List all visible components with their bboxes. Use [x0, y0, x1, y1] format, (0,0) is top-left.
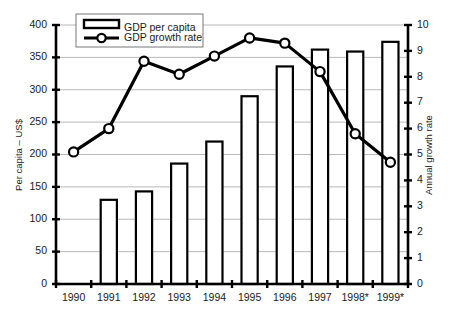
right-tick-label: 1: [417, 251, 423, 263]
bar: [277, 66, 293, 284]
x-axis-label: 1994: [203, 291, 227, 303]
left-tick-label: 350: [29, 50, 47, 62]
bar: [347, 52, 363, 284]
right-tick-label: 0: [417, 277, 423, 289]
data-point-marker: [315, 67, 324, 76]
x-axis-label: 1997: [308, 291, 332, 303]
right-tick-label: 10: [417, 18, 429, 30]
left-tick-label: 0: [41, 277, 47, 289]
x-axis-label: 1992: [132, 291, 156, 303]
x-axis-label: 1995: [238, 291, 262, 303]
data-point-marker: [245, 33, 254, 42]
right-tick-label: 2: [417, 225, 423, 237]
bar: [242, 96, 258, 284]
left-tick-label: 300: [29, 83, 47, 95]
bar: [171, 164, 187, 284]
right-tick-label: 7: [417, 95, 423, 107]
x-axis-label: 1991: [97, 291, 121, 303]
left-tick-label: 100: [29, 212, 47, 224]
data-point-marker: [351, 129, 360, 138]
data-point-marker: [175, 70, 184, 79]
left-tick-label: 250: [29, 115, 47, 127]
right-tick-label: 3: [417, 199, 423, 211]
bar: [101, 200, 117, 284]
left-tick-label: 400: [29, 18, 47, 30]
legend: GDP per capita GDP growth rate: [76, 14, 203, 47]
data-point-marker: [139, 57, 148, 66]
legend-label-gdp-growth-rate: GDP growth rate: [124, 31, 202, 43]
chart-container: 050100150200250300350400 012345678910 19…: [0, 0, 450, 317]
left-axis-title: Per capita – US$: [13, 118, 24, 191]
data-point-marker: [210, 51, 219, 60]
left-tick-label: 200: [29, 147, 47, 159]
bar: [136, 191, 152, 284]
x-axis-label: 1993: [168, 291, 192, 303]
right-axis-title: Annual growth rate: [423, 115, 434, 195]
legend-bar-swatch-icon: [84, 20, 119, 28]
x-axis-label: 1998*: [341, 291, 368, 303]
gdp-chart-svg: 050100150200250300350400 012345678910 19…: [0, 0, 450, 317]
left-tick-label: 150: [29, 180, 47, 192]
left-tick-label: 50: [35, 244, 47, 256]
data-point-marker: [386, 158, 395, 167]
bar: [206, 142, 222, 284]
right-tick-label: 9: [417, 44, 423, 56]
legend-circle-marker-icon: [97, 34, 105, 42]
x-axis-label: 1999*: [377, 291, 404, 303]
x-axis-label: 1996: [273, 291, 297, 303]
right-tick-label: 8: [417, 70, 423, 82]
data-point-marker: [69, 147, 78, 156]
data-point-marker: [104, 124, 113, 133]
data-point-marker: [280, 39, 289, 48]
x-axis-label: 1990: [62, 291, 86, 303]
